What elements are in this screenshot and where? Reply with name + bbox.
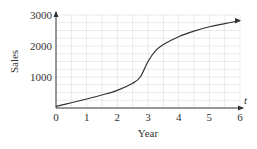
y-tick-label: 2000: [30, 40, 53, 52]
y-axis-arrow-icon: [54, 11, 59, 17]
x-tick-label: 2: [115, 111, 121, 123]
sales-chart: 0123456100020003000YearSalest: [0, 0, 257, 149]
x-tick-label: 5: [207, 111, 213, 123]
x-axis-variable: t: [244, 94, 248, 106]
y-tick-label: 3000: [30, 9, 53, 21]
y-tick-label: 1000: [30, 71, 53, 83]
x-tick-label: 0: [53, 111, 59, 123]
x-axis-label: Year: [138, 127, 159, 139]
x-tick-label: 4: [176, 111, 182, 123]
x-tick-label: 6: [237, 111, 243, 123]
x-tick-label: 1: [84, 111, 90, 123]
x-axis-arrow-icon: [238, 106, 244, 111]
y-axis-label: Sales: [8, 50, 20, 73]
x-tick-label: 3: [145, 111, 151, 123]
